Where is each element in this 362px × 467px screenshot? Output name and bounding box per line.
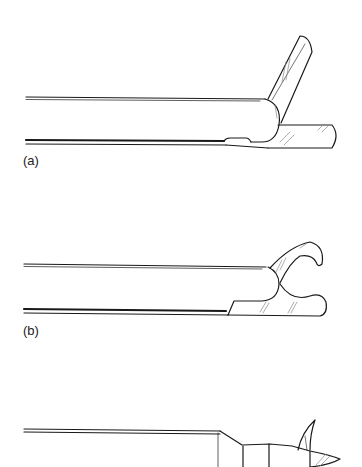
instrument-diagram — [0, 0, 362, 467]
panel-b-label: (b) — [23, 323, 39, 338]
panel-a-drawing — [26, 36, 336, 148]
panel-b-drawing — [24, 242, 326, 316]
panel-c-drawing — [24, 420, 340, 467]
panel-a-label: (a) — [23, 153, 39, 168]
